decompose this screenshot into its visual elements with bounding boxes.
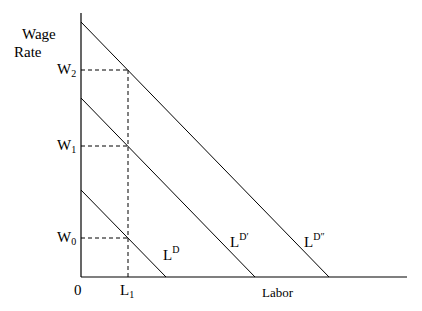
ld1-sup: D′ — [239, 231, 248, 242]
tick-w0: W0 — [57, 230, 76, 247]
ld2-base: L — [304, 234, 313, 250]
tick-w2-sub: 2 — [71, 68, 76, 79]
ld-sup: D — [172, 244, 179, 255]
curve-label-ld-prime: LD′ — [230, 232, 249, 250]
y-axis-label-line2: Rate — [14, 45, 42, 60]
ld-base: L — [163, 247, 172, 263]
curve-label-ld-double-prime: LD″ — [304, 232, 325, 250]
tick-w0-base: W — [57, 229, 71, 245]
tick-l1: L1 — [120, 283, 134, 300]
chart-canvas — [0, 0, 422, 311]
y-axis-label-line1: Wage — [22, 27, 56, 42]
origin-label: 0 — [74, 283, 82, 298]
curve-ld — [81, 190, 166, 277]
curve-label-ld: LD — [163, 245, 179, 263]
tick-l1-sub: 1 — [129, 289, 134, 300]
x-axis-label: Labor — [262, 286, 293, 299]
tick-w1-base: W — [57, 137, 71, 153]
tick-w1: W1 — [57, 138, 76, 155]
ld2-sup: D″ — [313, 231, 324, 242]
tick-w2-base: W — [57, 61, 71, 77]
tick-w1-sub: 1 — [71, 144, 76, 155]
ld1-base: L — [230, 234, 239, 250]
tick-w0-sub: 0 — [71, 236, 76, 247]
tick-l1-base: L — [120, 282, 129, 298]
tick-w2: W2 — [57, 62, 76, 79]
curve-ld-double-prime — [81, 22, 329, 277]
